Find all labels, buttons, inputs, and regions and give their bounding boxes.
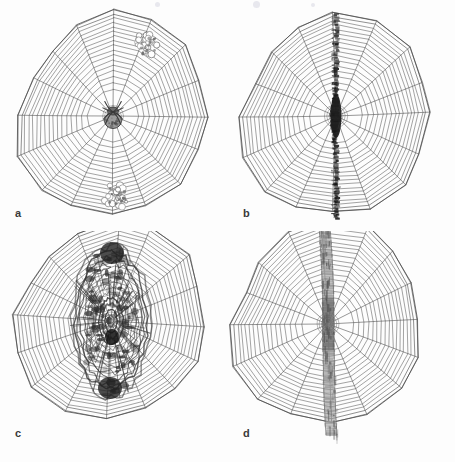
web-diagram-b <box>228 0 455 231</box>
web-diagram-c <box>0 231 227 462</box>
panel-a <box>0 0 227 231</box>
panel-label-b: b <box>243 208 250 219</box>
web-diagram-d <box>228 231 455 462</box>
figure-plate: a b c d <box>0 0 455 462</box>
panel-label-a: a <box>15 208 21 219</box>
stabilimentum-lenticular-mass <box>70 242 152 400</box>
panel-c <box>0 231 227 462</box>
web-diagram-a <box>0 0 227 231</box>
panel-label-c: c <box>15 428 21 439</box>
panel-label-d: d <box>243 428 250 439</box>
panel-d <box>228 231 455 462</box>
panel-b <box>228 0 455 231</box>
